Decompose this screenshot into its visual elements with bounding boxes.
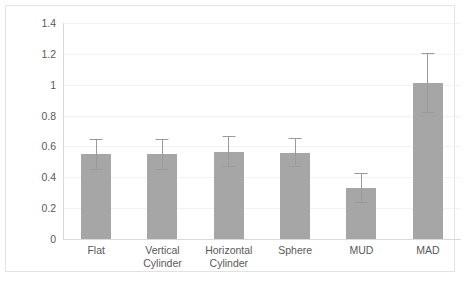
x-axis-category-label: MAD: [395, 244, 461, 257]
plot-area: [63, 23, 461, 239]
x-axis-category-label-line: Vertical: [129, 244, 195, 257]
bar-group: [196, 23, 262, 239]
error-bar-cap-bottom: [355, 202, 368, 203]
y-axis-tick-label: 1.2: [10, 49, 56, 59]
y-axis-tick-label: 1: [10, 80, 56, 90]
error-bar-cap-bottom: [90, 169, 103, 170]
error-bar-cap-top: [355, 173, 368, 174]
x-axis-category-label-line: Horizontal: [196, 244, 262, 257]
y-axis-tick-labels: 00.20.40.60.811.21.4: [6, 23, 56, 239]
x-axis-line: [63, 239, 461, 240]
error-bar-cap-bottom: [156, 169, 169, 170]
error-bar-cap-bottom: [421, 112, 434, 113]
y-axis-tick-label: 1.4: [10, 18, 56, 28]
error-bar: [156, 139, 169, 170]
error-bar: [222, 136, 235, 167]
y-axis-tick-label: 0.8: [10, 111, 56, 121]
error-bar-line: [427, 53, 428, 113]
x-axis-category-label-line: Sphere: [262, 244, 328, 257]
x-axis-category-label: Sphere: [262, 244, 328, 257]
error-bar-cap-top: [222, 136, 235, 137]
x-axis-category-label: VerticalCylinder: [129, 244, 195, 269]
error-bar-line: [295, 138, 296, 167]
error-bar-line: [162, 139, 163, 170]
y-axis-tick-label: 0: [10, 234, 56, 244]
x-axis-category-label-line: Cylinder: [129, 257, 195, 270]
bar-group: [63, 23, 129, 239]
chart-frame: 00.20.40.60.811.21.4 FlatVerticalCylinde…: [5, 5, 455, 272]
x-axis-category-labels: FlatVerticalCylinderHorizontalCylinderSp…: [63, 244, 461, 276]
x-axis-category-label-line: Flat: [63, 244, 129, 257]
error-bar: [90, 139, 103, 170]
error-bar: [289, 138, 302, 167]
error-bar-cap-top: [156, 139, 169, 140]
bar-group: [262, 23, 328, 239]
error-bar-cap-bottom: [289, 166, 302, 167]
error-bar-line: [228, 136, 229, 167]
error-bar-cap-top: [289, 138, 302, 139]
x-axis-category-label-line: MAD: [395, 244, 461, 257]
error-bar-line: [361, 173, 362, 202]
error-bar-line: [96, 139, 97, 170]
x-axis-category-label: HorizontalCylinder: [196, 244, 262, 269]
bar-group: [129, 23, 195, 239]
bar-group: [395, 23, 461, 239]
y-axis-tick-label: 0.4: [10, 172, 56, 182]
bar-group: [328, 23, 394, 239]
x-axis-category-label: Flat: [63, 244, 129, 257]
error-bar-cap-top: [90, 139, 103, 140]
y-axis-tick-label: 0.2: [10, 203, 56, 213]
y-axis-tick-label: 0.6: [10, 141, 56, 151]
x-axis-category-label-line: MUD: [328, 244, 394, 257]
x-axis-category-label-line: Cylinder: [196, 257, 262, 270]
error-bar-cap-top: [421, 53, 434, 54]
error-bar: [355, 173, 368, 202]
x-axis-category-label: MUD: [328, 244, 394, 257]
error-bar-cap-bottom: [222, 166, 235, 167]
error-bar: [421, 53, 434, 113]
